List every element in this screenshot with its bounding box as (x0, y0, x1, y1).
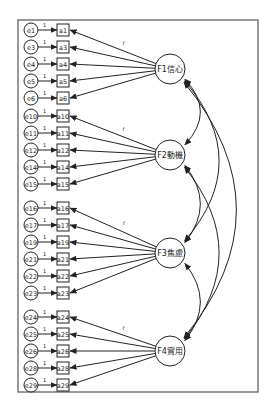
error-label: e16 (25, 205, 37, 213)
indicator-a25: a25 (57, 328, 69, 340)
loading-marker: f (122, 325, 125, 331)
indicator-label: a24 (57, 314, 69, 322)
loading-path (70, 64, 155, 68)
indicator-a12: a12 (57, 144, 69, 156)
indicator-label: a5 (59, 78, 67, 86)
indicator-a29: a29 (57, 379, 69, 391)
loading-path (70, 157, 155, 167)
loading-path (70, 242, 155, 251)
indicator-a16: a16 (57, 202, 69, 214)
indicator-label: a17 (57, 222, 69, 230)
indicator-a21: a21 (57, 253, 69, 265)
covariance-F1-F2 (185, 79, 201, 145)
indicator-a22: a22 (57, 270, 69, 282)
indicator-label: a10 (57, 113, 69, 121)
error-term-e11: e11 (24, 126, 38, 140)
loading-path (70, 208, 156, 247)
fixed-weight-label: 1 (43, 268, 46, 274)
error-label: e25 (25, 331, 37, 339)
loading-path (70, 317, 156, 346)
error-label: e22 (25, 273, 37, 281)
indicator-label: a25 (57, 331, 69, 339)
indicator-label: a6 (59, 95, 67, 103)
error-label: e17 (25, 222, 37, 230)
fixed-weight-label: 1 (43, 285, 46, 291)
fixed-weight-label: 1 (43, 108, 46, 114)
error-term-e15: e15 (24, 177, 38, 191)
loading-marker: f (123, 126, 126, 132)
error-label: e24 (25, 314, 37, 322)
factor-label: F1信心 (157, 64, 183, 74)
fixed-weight-label: 1 (43, 125, 46, 131)
fixed-weight-label: 1 (43, 90, 46, 96)
error-label: e11 (25, 130, 37, 138)
indicator-label: a4 (59, 61, 67, 69)
error-term-e14: e14 (24, 160, 38, 174)
fixed-weight-label: 1 (43, 326, 46, 332)
factor-label: F2動機 (157, 150, 183, 160)
loading-path (70, 259, 156, 293)
error-label: e12 (25, 147, 37, 155)
indicator-label: a3 (59, 44, 67, 52)
indicator-a10: a10 (57, 110, 69, 122)
error-term-e1: e1 (24, 23, 38, 37)
indicator-a1: a1 (57, 24, 69, 36)
indicator-a17: a17 (57, 219, 69, 231)
fixed-weight-label: 1 (43, 360, 46, 366)
error-term-e23: e23 (24, 286, 38, 300)
indicator-a3: a3 (57, 41, 69, 53)
fixed-weight-label: 1 (43, 217, 46, 223)
indicator-label: a29 (57, 382, 69, 390)
fixed-weight-label: 1 (43, 377, 46, 383)
indicator-label: a28 (57, 365, 69, 373)
loading-path (70, 356, 156, 385)
loading-path (70, 256, 155, 276)
error-label: e14 (25, 164, 37, 172)
fixed-weight-label: 1 (43, 73, 46, 79)
error-label: e21 (25, 256, 37, 264)
error-term-e5: e5 (24, 74, 38, 88)
error-label: e3 (27, 44, 35, 52)
indicator-a19: a19 (57, 236, 69, 248)
indicator-label: a21 (57, 256, 69, 264)
indicator-label: a16 (57, 205, 69, 213)
loading-marker: f (123, 40, 126, 46)
error-term-e12: e12 (24, 143, 38, 157)
indicator-label: a1 (59, 27, 67, 35)
indicator-a24: a24 (57, 311, 69, 323)
diagram-border (18, 20, 258, 392)
loading-path (70, 150, 155, 154)
cfa-path-diagram: e11a1fe31a3e41a4e51a5e61a6F1信心e101a10fe1… (0, 0, 274, 416)
indicator-a23: a23 (57, 287, 69, 299)
fixed-weight-label: 1 (43, 200, 46, 206)
error-label: e15 (25, 181, 37, 189)
factor-label: F3焦慮 (157, 248, 183, 258)
indicator-a11: a11 (57, 127, 69, 139)
error-label: e5 (27, 78, 35, 86)
indicator-a14: a14 (57, 161, 69, 173)
error-label: e6 (27, 95, 35, 103)
indicator-label: a12 (57, 147, 69, 155)
indicator-label: a14 (57, 164, 69, 172)
loading-path (70, 133, 155, 152)
latent-factor-F2: F2動機 (155, 140, 185, 170)
loading-path (70, 71, 155, 81)
error-term-e26: e26 (24, 344, 38, 358)
fixed-weight-label: 1 (43, 251, 46, 257)
error-term-e17: e17 (24, 218, 38, 232)
loading-path (70, 30, 156, 64)
factor-label: F4實用 (157, 346, 183, 356)
error-term-e25: e25 (24, 327, 38, 341)
fixed-weight-label: 1 (43, 56, 46, 62)
error-label: e26 (25, 348, 37, 356)
fixed-weight-label: 1 (43, 142, 46, 148)
error-label: e28 (25, 365, 37, 373)
fixed-weight-label: 1 (43, 39, 46, 45)
error-label: e1 (27, 27, 35, 35)
indicator-a4: a4 (57, 58, 69, 70)
indicator-label: a26 (57, 348, 69, 356)
indicator-label: a19 (57, 239, 69, 247)
error-term-e21: e21 (24, 252, 38, 266)
error-term-e28: e28 (24, 361, 38, 375)
error-term-e19: e19 (24, 235, 38, 249)
